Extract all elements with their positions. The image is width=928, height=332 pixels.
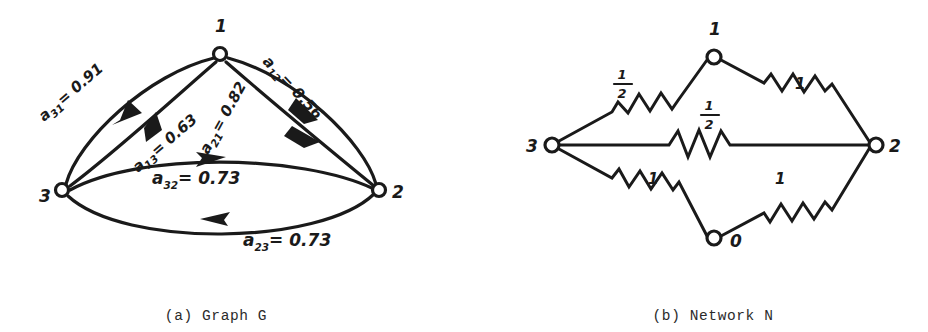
edge-label-a31: a31= 0.91 [35, 59, 108, 126]
graph-node-label-2: 2 [392, 182, 404, 202]
resistor-3-2 [560, 130, 868, 157]
resistor-1-2 [721, 60, 869, 141]
edge-label-a21: a21= 0.82 [196, 79, 252, 158]
caption-network-n: (b) Network N [464, 308, 928, 324]
edge-label-a23-sub: 23 [254, 241, 269, 253]
network-node-label-1: 1 [709, 19, 721, 39]
resistor-label-3-1-numerator: 1 [617, 67, 626, 82]
edge-label-a32-sub: 32 [163, 179, 178, 191]
panel-graph-g: 1 3 2 a31= 0.91 a13= 0.63 a21= 0.82 [0, 0, 464, 332]
network-node-3 [545, 138, 559, 152]
resistor-label-3-0: 1 [648, 170, 658, 188]
caption-graph-g: (a) Graph G [0, 308, 464, 324]
panel-network-n: 1 3 2 0 1 2 1 1 2 1 1 (b) Net [464, 0, 928, 332]
network-node-2 [869, 138, 883, 152]
resistor-label-0-2: 1 [775, 170, 785, 188]
resistor-label-3-1: 1 2 [614, 67, 632, 101]
edge-label-a32: a32= 0.73 [152, 168, 240, 191]
graph-node-2 [373, 184, 386, 197]
svg-text:a21= 0.82: a21= 0.82 [196, 79, 252, 158]
resistor-label-3-2-denominator: 2 [704, 117, 713, 132]
resistor-label-3-1-denominator: 2 [617, 86, 626, 101]
graph-node-label-1: 1 [215, 16, 227, 36]
resistor-label-1-2: 1 [795, 75, 805, 93]
edge-label-a23-base: a [243, 230, 254, 250]
network-node-1 [707, 50, 721, 64]
arrowhead-2-to-3 [200, 212, 230, 226]
graph-node-3 [56, 184, 69, 197]
network-node-0 [707, 231, 721, 245]
edge-label-a23-value: = 0.73 [269, 230, 331, 250]
edge-2-to-3 [68, 194, 374, 234]
figure-container: 1 3 2 a31= 0.91 a13= 0.63 a21= 0.82 [0, 0, 928, 332]
network-n-drawing: 1 3 2 0 1 2 1 1 2 1 1 [464, 0, 928, 300]
svg-text:a32= 0.73: a32= 0.73 [152, 168, 240, 191]
graph-node-label-3: 3 [39, 186, 51, 206]
graph-g-drawing: 1 3 2 a31= 0.91 a13= 0.63 a21= 0.82 [0, 0, 464, 300]
graph-node-1 [214, 48, 227, 61]
resistor-label-3-2-numerator: 1 [704, 98, 713, 113]
network-node-label-2: 2 [889, 136, 901, 156]
edge-label-a32-base: a [152, 168, 163, 188]
edge-label-a32-value: = 0.73 [178, 168, 240, 188]
resistor-label-3-2: 1 2 [701, 98, 719, 132]
resistor-0-2 [721, 149, 869, 236]
resistor-3-0 [559, 149, 707, 236]
svg-text:a31= 0.91: a31= 0.91 [35, 59, 108, 126]
resistor-3-1 [559, 60, 707, 141]
network-node-label-0: 0 [730, 231, 742, 251]
network-node-label-3: 3 [526, 136, 538, 156]
edge-label-a21-value: = 0.82 [208, 79, 250, 136]
edge-label-a31-value: = 0.91 [53, 59, 106, 109]
